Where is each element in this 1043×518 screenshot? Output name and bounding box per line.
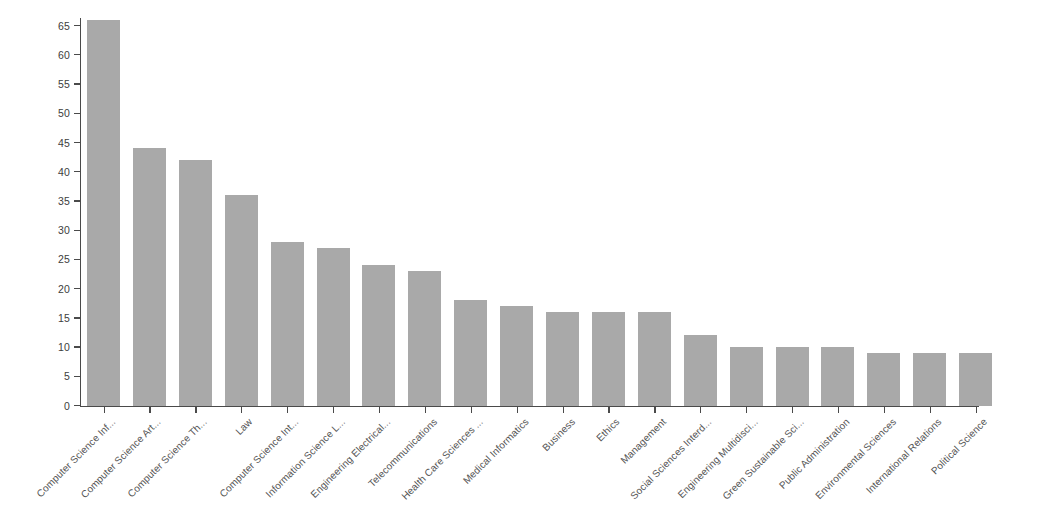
x-axis-tick-label: Environmental Sciences [813, 416, 898, 501]
y-axis-tick-label-wrap: 30 [0, 224, 70, 236]
y-axis-tick-label: 15 [0, 312, 70, 324]
bar-chart: 05101520253035404550556065 Computer Scie… [0, 0, 1043, 518]
y-axis-tick-mark [74, 83, 81, 84]
y-axis-tick-label-wrap: 5 [0, 370, 70, 382]
y-axis-tick-label: 55 [0, 78, 70, 90]
y-axis-tick-mark [74, 317, 81, 318]
bar[interactable] [913, 353, 946, 406]
y-axis-tick-label: 20 [0, 283, 70, 295]
bar[interactable] [821, 347, 854, 405]
bar[interactable] [500, 306, 533, 405]
x-axis-tick-mark [976, 406, 977, 413]
x-axis-tick-label: Engineering Multidisci... [676, 416, 760, 500]
y-axis-tick-mark [74, 54, 81, 55]
x-axis-tick-mark [471, 406, 472, 413]
y-axis-tick-label-wrap: 60 [0, 49, 70, 61]
x-axis-tick-label: Computer Science Art... [79, 416, 163, 500]
bar[interactable] [867, 353, 900, 406]
x-axis-tick-mark [425, 406, 426, 413]
bar[interactable] [730, 347, 763, 405]
y-axis-tick-mark [74, 376, 81, 377]
x-axis-tick-mark [654, 406, 655, 413]
y-axis-tick-label-wrap: 55 [0, 78, 70, 90]
bar[interactable] [179, 160, 212, 406]
bar[interactable] [592, 312, 625, 406]
y-axis-tick-mark [74, 288, 81, 289]
bar[interactable] [408, 271, 441, 405]
x-axis-tick-label: Engineering Electrical... [308, 416, 392, 500]
y-axis-tick-label-wrap: 40 [0, 166, 70, 178]
y-axis-tick-label: 50 [0, 107, 70, 119]
y-axis-tick-label-wrap: 65 [0, 20, 70, 32]
y-axis-tick-mark [74, 113, 81, 114]
plot-area: 05101520253035404550556065 Computer Scie… [0, 0, 1043, 518]
x-axis-tick-mark [195, 406, 196, 413]
x-axis-tick-label: Information Science L... [263, 416, 347, 500]
y-axis-tick-mark [74, 405, 81, 406]
y-axis-tick-label: 25 [0, 253, 70, 265]
x-axis-tick-label: Management [619, 416, 669, 466]
y-axis-tick-label-wrap: 25 [0, 253, 70, 265]
x-axis-tick-label: Health Care Sciences ... [399, 416, 485, 502]
x-axis-tick-mark [287, 406, 288, 413]
bar[interactable] [776, 347, 809, 405]
y-axis-tick-label-wrap: 20 [0, 283, 70, 295]
bar[interactable] [271, 242, 304, 406]
y-axis-tick-label-wrap: 15 [0, 312, 70, 324]
x-axis-tick-label: Law [234, 416, 255, 437]
x-axis-tick-label: International Relations [864, 416, 944, 496]
bar[interactable] [546, 312, 579, 406]
x-axis-tick-mark [930, 406, 931, 413]
y-axis-tick-label-wrap: 0 [0, 400, 70, 412]
y-axis-tick-mark [74, 346, 81, 347]
y-axis-tick-mark [74, 171, 81, 172]
bar[interactable] [133, 148, 166, 405]
x-axis-tick-mark [746, 406, 747, 413]
bar[interactable] [317, 248, 350, 406]
y-axis-tick-label: 35 [0, 195, 70, 207]
x-axis-tick-label: Computer Science Th... [126, 416, 209, 499]
y-axis-line [80, 18, 81, 407]
bar[interactable] [684, 335, 717, 405]
y-axis-tick-mark [74, 200, 81, 201]
x-axis-tick-label: Business [540, 416, 577, 453]
bar[interactable] [225, 195, 258, 405]
y-axis-tick-label: 30 [0, 224, 70, 236]
y-axis-tick-label: 10 [0, 341, 70, 353]
y-axis-tick-mark [74, 230, 81, 231]
bar[interactable] [362, 265, 395, 405]
y-axis-tick-label-wrap: 35 [0, 195, 70, 207]
x-axis-tick-mark [104, 406, 105, 413]
y-axis-tick-label: 45 [0, 137, 70, 149]
x-axis-tick-label: Computer Science Inf... [34, 416, 117, 499]
y-axis-tick-label-wrap: 45 [0, 137, 70, 149]
x-axis-tick-mark [700, 406, 701, 413]
x-axis-tick-label: Social Sciences Interd... [628, 416, 713, 501]
bar[interactable] [87, 20, 120, 406]
x-axis-tick-mark [792, 406, 793, 413]
y-axis-tick-label: 65 [0, 20, 70, 32]
bar[interactable] [959, 353, 992, 406]
bar[interactable] [638, 312, 671, 406]
x-axis-tick-mark [333, 406, 334, 413]
x-axis-tick-label: Computer Science Int... [217, 416, 300, 499]
x-axis-tick-mark [241, 406, 242, 413]
y-axis-tick-label: 40 [0, 166, 70, 178]
x-axis-tick-mark [608, 406, 609, 413]
y-axis-tick-label: 60 [0, 49, 70, 61]
y-axis-tick-label: 0 [0, 400, 70, 412]
x-axis-tick-mark [149, 406, 150, 413]
y-axis-tick-label-wrap: 10 [0, 341, 70, 353]
x-axis-tick-mark [517, 406, 518, 413]
y-axis-tick-mark [74, 142, 81, 143]
x-axis-tick-label: Green Sustainable Sci... [720, 416, 806, 502]
y-axis-tick-label-wrap: 50 [0, 107, 70, 119]
y-axis-tick-mark [74, 25, 81, 26]
x-axis-tick-mark [379, 406, 380, 413]
bar[interactable] [454, 300, 487, 405]
x-axis-tick-mark [838, 406, 839, 413]
y-axis-tick-mark [74, 259, 81, 260]
x-axis-tick-mark [563, 406, 564, 413]
x-axis-tick-label: Ethics [595, 416, 622, 443]
y-axis-tick-label: 5 [0, 370, 70, 382]
